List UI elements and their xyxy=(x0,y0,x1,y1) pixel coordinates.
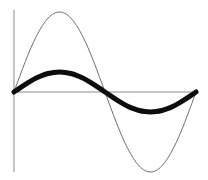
plot-canvas xyxy=(0,0,208,180)
sine-wave-figure xyxy=(0,0,208,180)
